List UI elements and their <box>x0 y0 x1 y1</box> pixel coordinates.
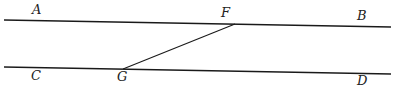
label-d: D <box>356 73 368 88</box>
label-a: A <box>31 2 41 17</box>
line-fg <box>123 24 235 69</box>
label-g: G <box>117 69 127 84</box>
diagram-canvas: A F B C G D <box>0 0 399 90</box>
line-ab <box>4 20 391 27</box>
label-c: C <box>31 68 41 83</box>
line-cd <box>4 67 391 74</box>
label-f: F <box>220 5 231 20</box>
diagram: A F B C G D <box>0 0 399 90</box>
label-b: B <box>356 8 367 23</box>
